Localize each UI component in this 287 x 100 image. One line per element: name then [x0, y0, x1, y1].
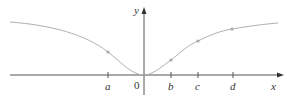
y-axis-arrow-icon: [142, 7, 147, 14]
x-axis-arrow-icon: [277, 73, 284, 78]
marked-points: [106, 27, 233, 61]
point-d: [230, 27, 233, 30]
y-axis-label: y: [133, 4, 139, 16]
tick-label-b: b: [168, 80, 174, 92]
point-b: [169, 58, 172, 61]
point-a: [106, 50, 109, 53]
y-axis: [142, 7, 147, 95]
x-axis-label: x: [270, 80, 276, 92]
point-c: [196, 39, 199, 42]
tick-label-a: a: [105, 80, 111, 92]
origin-label: 0: [134, 79, 140, 91]
function-graph: y x 0 a b c d: [0, 0, 287, 100]
tick-label-c: c: [195, 80, 200, 92]
tick-label-d: d: [230, 80, 236, 92]
